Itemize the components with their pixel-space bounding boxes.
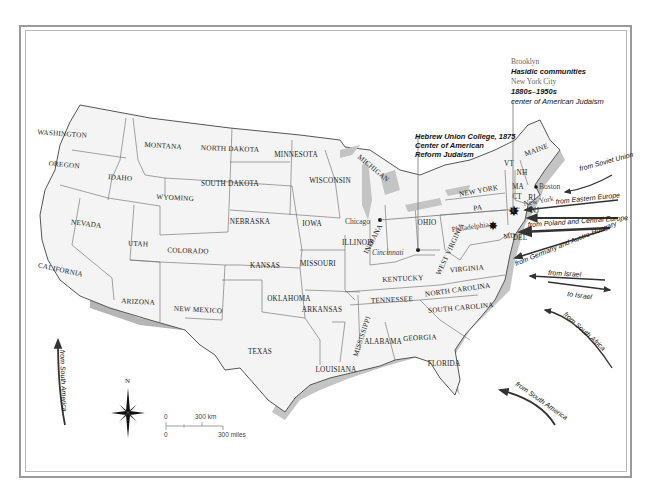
scale-bar: 0 300 km 0 300 miles: [164, 413, 247, 438]
state-label-minnesota: MINNESOTA: [274, 151, 318, 159]
state-label-oregon: OREGON: [48, 160, 80, 171]
boston-label: Boston: [539, 182, 561, 191]
nyc-star-icon: ✸: [508, 204, 520, 219]
flow-label-south-africa: from South Africa: [562, 311, 607, 352]
us-map: WASHINGTONOREGONIDAHOMONTANAWYOMINGNORTH…: [0, 0, 647, 497]
state-label-iowa: IOWA: [302, 220, 322, 228]
scale-km-zero: 0: [164, 413, 168, 420]
state-label-nh: NH: [517, 169, 528, 177]
state-label-ct: CT: [512, 193, 522, 201]
state-label-alabama: ALABAMA: [364, 338, 402, 346]
hasidic-label: Hasidic communities: [511, 67, 586, 76]
state-label-arkansas: ARKANSAS: [302, 306, 342, 314]
state-label-oklahoma: OKLAHOMA: [267, 295, 311, 303]
scale-mi-zero: 0: [164, 431, 168, 438]
cincinnati-label: Cincinnati: [372, 248, 404, 257]
arrow-south-africa: [545, 310, 612, 368]
huc-label-2: Center of American: [415, 141, 484, 150]
philadelphia-star-icon: ✸: [488, 219, 498, 233]
state-label-florida: FLORIDA: [428, 360, 461, 368]
boston-dot: [534, 185, 538, 189]
compass-north-label: N: [125, 377, 130, 385]
state-label-utah: UTAH: [128, 239, 149, 248]
nyc-years-label: 1880s–1950s: [511, 87, 557, 96]
chicago-label: Chicago: [345, 217, 370, 226]
scale-km-label: 300 km: [195, 413, 216, 420]
state-label-ma: MA: [512, 183, 525, 191]
arrow-to-israel: [548, 282, 610, 290]
state-label-south-dakota: SOUTH DAKOTA: [201, 180, 260, 188]
state-label-nebraska: NEBRASKA: [230, 218, 271, 226]
huc-label-3: Reform Judaism: [415, 150, 474, 159]
state-label-colorado: COLORADO: [167, 246, 209, 255]
state-label-del: DEL: [513, 234, 528, 242]
state-label-texas: TEXAS: [248, 348, 272, 356]
flow-label-south-america-east: from South America: [514, 380, 569, 421]
arrow-soviet-union: [565, 175, 612, 192]
huc-label-1: Hebrew Union College, 1875: [415, 132, 516, 141]
flow-label-from-israel: from Israel: [548, 269, 582, 278]
nyc-desc-label: center of American Judaism: [511, 97, 604, 106]
flow-label-south-america-west: from South America: [59, 350, 68, 412]
nyc-label: New York City: [511, 77, 556, 86]
scale-mi-label: 300 miles: [218, 431, 247, 438]
state-label-pa: PA: [473, 204, 483, 213]
state-label-louisiana: LOUISIANA: [316, 366, 358, 374]
state-label-wisconsin: WISCONSIN: [309, 177, 351, 185]
compass-rose-icon: N: [111, 377, 145, 438]
brooklyn-label: Brooklyn: [511, 57, 540, 66]
flow-label-soviet: from Soviet Union: [578, 151, 634, 172]
state-label-ohio: OHIO: [418, 219, 437, 227]
state-label-missouri: MISSOURI: [300, 260, 336, 268]
state-label-kansas: KANSAS: [250, 262, 280, 270]
flow-label-to-israel: to Israel: [567, 290, 593, 300]
